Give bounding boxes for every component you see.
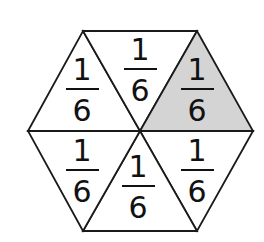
numerator: 1 [72, 52, 91, 87]
numerator: 1 [130, 32, 149, 67]
denominator: 6 [130, 73, 149, 108]
numerator: 1 [187, 52, 206, 87]
denominator: 6 [72, 93, 91, 128]
numerator: 1 [187, 133, 206, 168]
denominator: 6 [187, 174, 206, 209]
hexagon-fraction-diagram: 1 6 1 6 1 6 1 6 1 6 1 6 [0, 0, 264, 242]
denominator: 6 [128, 190, 147, 225]
denominator: 6 [72, 174, 91, 209]
numerator: 1 [128, 149, 147, 184]
numerator: 1 [72, 133, 91, 168]
denominator: 6 [187, 93, 206, 128]
